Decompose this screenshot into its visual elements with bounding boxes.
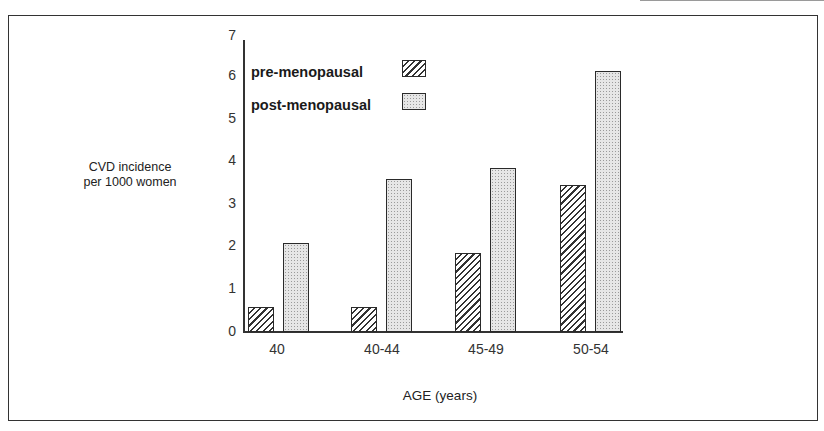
- bar-pre-40: [248, 307, 274, 333]
- bar-post-50-54: [595, 71, 621, 332]
- x-tick-45-49: 45-49: [446, 341, 526, 357]
- y-axis-line: [243, 40, 245, 332]
- x-axis-title: AGE (years): [360, 388, 520, 403]
- bar-pre-45-49: [455, 253, 481, 332]
- bar-pre-50-54: [560, 185, 586, 332]
- legend-swatch-hatch-icon: [402, 60, 426, 77]
- y-tick-1: 1: [222, 281, 236, 295]
- y-axis-title-line-1: CVD incidence: [70, 160, 190, 175]
- y-tick-3: 3: [222, 196, 236, 210]
- x-tick-40: 40: [237, 341, 317, 357]
- x-tick-40-44: 40-44: [342, 341, 422, 357]
- y-axis-title: CVD incidence per 1000 women: [70, 160, 190, 190]
- bar-post-40: [283, 243, 309, 332]
- legend-label-pre-menopausal: pre-menopausal: [251, 64, 363, 80]
- page-rule: [640, 0, 824, 1]
- y-tick-4: 4: [222, 153, 236, 167]
- y-axis-title-line-2: per 1000 women: [70, 175, 190, 190]
- bar-pre-40-44: [351, 307, 377, 333]
- y-tick-0: 0: [222, 324, 236, 338]
- legend-swatch-stipple-icon: [402, 93, 426, 110]
- bar-post-40-44: [386, 179, 412, 332]
- y-tick-5: 5: [222, 111, 236, 125]
- y-tick-6: 6: [222, 68, 236, 82]
- bar-post-45-49: [490, 168, 516, 332]
- x-tick-50-54: 50-54: [551, 341, 631, 357]
- y-tick-2: 2: [222, 238, 236, 252]
- y-tick-7: 7: [222, 28, 236, 42]
- legend-label-post-menopausal: post-menopausal: [251, 97, 371, 113]
